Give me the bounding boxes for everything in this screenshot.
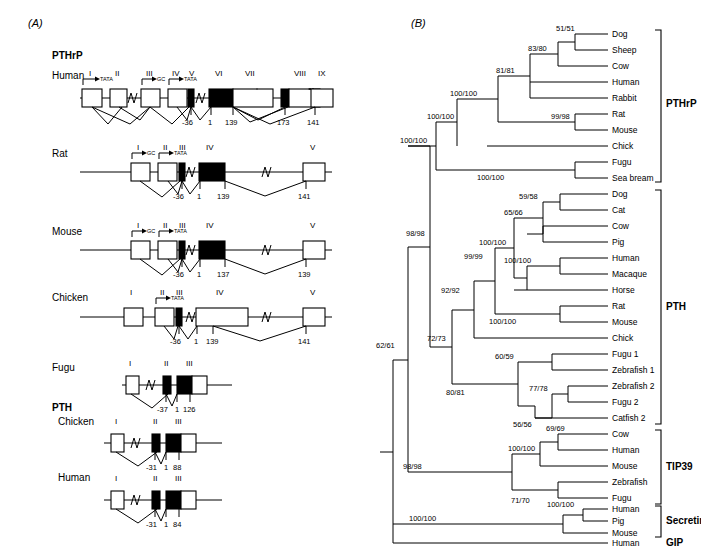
bootstrap-label: 98/98 <box>406 229 425 238</box>
bootstrap-label: 98/98 <box>403 462 422 471</box>
bootstrap-label: 72/73 <box>427 334 446 343</box>
leaf-label: Human <box>612 445 640 455</box>
clade-label-pthrp: PTHrP <box>666 98 697 109</box>
leaf-label: Sea bream <box>612 173 654 183</box>
bootstrap-label: 100/100 <box>409 514 436 523</box>
bootstrap-label: 100/100 <box>508 444 535 453</box>
bootstrap-label: 65/66 <box>504 208 523 217</box>
leaf-label: Mouse <box>612 461 638 471</box>
leaf-label: Fugu <box>612 493 632 503</box>
leaf-label: Zebrafish 1 <box>612 365 655 375</box>
clade-bracket-secretin <box>655 506 661 537</box>
leaf-label: Cow <box>612 61 630 71</box>
bootstrap-label: 99/99 <box>464 252 483 261</box>
leaf-label: Human <box>612 538 640 548</box>
bootstrap-label: 100/100 <box>489 317 516 326</box>
leaf-label: Rat <box>612 109 626 119</box>
bootstrap-label: 69/69 <box>546 424 565 433</box>
bootstrap-label: 59/58 <box>519 192 538 201</box>
leaf-label: Cow <box>612 221 630 231</box>
leaf-label: Fugu <box>612 157 632 167</box>
bootstrap-label: 99/98 <box>551 112 570 121</box>
clade-bracket-pth <box>655 190 661 424</box>
bootstrap-label: 100/100 <box>479 238 506 247</box>
leaf-label: Horse <box>612 285 635 295</box>
leaf-label: Zebrafish <box>612 477 648 487</box>
phylogenetic-tree: 51/51 83/80 81/81 100/100 99/98 100/100 … <box>0 0 701 548</box>
bootstrap-label: 83/80 <box>528 44 547 53</box>
bootstrap-label: 51/51 <box>556 24 575 33</box>
bootstrap-label: 100/100 <box>427 112 454 121</box>
bootstrap-label: 60/59 <box>495 352 514 361</box>
clade-label-tip39: TIP39 <box>666 461 693 472</box>
bootstrap-label: 77/78 <box>529 384 548 393</box>
clade-bracket-tip39 <box>655 430 661 504</box>
leaf-label: Fugu 1 <box>612 349 639 359</box>
leaf-label: Human <box>612 504 640 514</box>
bootstrap-label: 92/92 <box>441 286 460 295</box>
leaf-label: Dog <box>612 189 628 199</box>
leaf-label: Chick <box>612 141 634 151</box>
leaf-label: Chick <box>612 333 634 343</box>
bootstrap-label: 62/61 <box>376 341 395 350</box>
bootstrap-label: 100/100 <box>400 136 427 145</box>
leaf-label: Fugu 2 <box>612 397 639 407</box>
bootstrap-label: 100/100 <box>547 500 574 509</box>
leaf-label: Zebrafish 2 <box>612 381 655 391</box>
leaf-label: Cat <box>612 205 626 215</box>
leaf-label: Macaque <box>612 269 647 279</box>
leaf-label: Pig <box>612 237 625 247</box>
bootstrap-label: 80/81 <box>446 388 465 397</box>
leaf-label: Human <box>612 253 640 263</box>
clade-label-pth: PTH <box>666 301 686 312</box>
leaf-label: Human <box>612 77 640 87</box>
leaf-label: Dog <box>612 29 628 39</box>
bootstrap-label: 71/70 <box>511 496 530 505</box>
bootstrap-label: 100/100 <box>504 256 531 265</box>
leaf-label: Catfish 2 <box>612 413 646 423</box>
leaf-label: Rabbit <box>612 93 637 103</box>
clade-label-gip: GIP <box>666 537 684 548</box>
bootstrap-label: 100/100 <box>450 89 477 98</box>
leaf-label: Sheep <box>612 45 637 55</box>
bootstrap-label: 100/100 <box>477 173 504 182</box>
clade-bracket-pthrp <box>655 30 661 182</box>
clade-label-secretin: Secretin <box>666 515 701 526</box>
leaf-label: Cow <box>612 429 630 439</box>
leaf-label: Pig <box>612 516 625 526</box>
bootstrap-label: 56/56 <box>513 420 532 429</box>
bootstrap-label: 81/81 <box>496 66 515 75</box>
leaf-label: Rat <box>612 301 626 311</box>
leaf-label: Mouse <box>612 528 638 538</box>
leaf-label: Mouse <box>612 317 638 327</box>
leaf-label: Mouse <box>612 125 638 135</box>
